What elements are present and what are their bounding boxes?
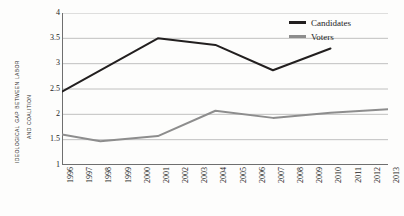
x-tick-label: 2007 [277,167,286,183]
y-axis-title: Ideological gap between Labor and Coalit… [0,0,40,170]
x-tick-label: 1997 [85,167,94,183]
x-tick-label: 1998 [104,167,113,183]
y-tick-label: 2.5 [38,84,60,93]
series-line-candidates [62,38,330,91]
legend-label: Candidates [311,18,351,28]
x-tick-label: 2013 [392,167,401,183]
y-axis-title-line-1: Ideological gap between Labor [12,60,21,163]
chart-screenshot: Ideological gap between Labor and Coalit… [0,0,404,216]
y-tick-label: 3 [38,58,60,67]
y-tick-label: 1 [38,160,60,169]
y-axis-title-line-2: and Coalition [24,95,33,139]
x-tick-label: 2010 [334,167,343,183]
legend-item: Candidates [289,17,351,28]
legend-swatch-icon [289,35,306,38]
x-tick-label: 2002 [181,167,190,183]
y-axis-tick-labels: 43.532.521.51 [36,0,60,180]
y-tick-label: 4 [38,8,60,17]
x-tick-label: 2011 [354,167,363,183]
x-tick-label: 2003 [200,167,209,183]
y-tick-label: 3.5 [38,33,60,42]
legend-label: Voters [311,32,334,42]
x-tick-label: 2005 [239,167,248,183]
x-tick-label: 2004 [219,167,228,183]
x-tick-label: 1996 [66,167,75,183]
legend-swatch-icon [289,21,306,24]
x-tick-label: 2001 [162,167,171,183]
x-tick-label: 1999 [124,167,133,183]
chart-legend: CandidatesVoters [289,17,351,42]
x-tick-label: 2008 [296,167,305,183]
x-tick-label: 2000 [143,167,152,183]
legend-item: Voters [289,31,351,42]
data-series-group [62,38,388,141]
x-tick-label: 2006 [258,167,267,183]
x-tick-label: 2009 [315,167,324,183]
x-axis-tick-labels: 1996199719981999200020012002200320042005… [62,167,392,216]
x-tick-label: 2012 [373,167,382,183]
y-tick-label: 1.5 [38,134,60,143]
y-tick-label: 2 [38,109,60,118]
